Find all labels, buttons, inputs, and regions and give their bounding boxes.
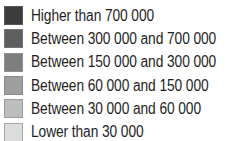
legend-swatch-0	[4, 6, 23, 25]
legend-swatch-5	[4, 123, 23, 141]
legend-label: Between 150 000 and 300 000	[31, 53, 216, 71]
legend-swatch-3	[4, 76, 23, 95]
legend-label: Lower than 30 000	[31, 123, 144, 141]
legend-swatch-2	[4, 53, 23, 72]
legend-item-60000-to-150000: Between 60 000 and 150 000	[4, 74, 244, 97]
legend-label: Between 30 000 and 60 000	[31, 100, 201, 118]
legend-item-300000-to-700000: Between 300 000 and 700 000	[4, 27, 244, 50]
legend-item-lower-than-30000: Lower than 30 000	[4, 120, 244, 141]
map-legend: Higher than 700 000 Between 300 000 and …	[4, 4, 244, 141]
legend-label: Between 60 000 and 150 000	[31, 77, 209, 95]
legend-swatch-1	[4, 29, 23, 48]
legend-label: Higher than 700 000	[31, 7, 154, 25]
legend-swatch-4	[4, 99, 23, 118]
legend-item-higher-than-700000: Higher than 700 000	[4, 4, 244, 27]
legend-item-30000-to-60000: Between 30 000 and 60 000	[4, 97, 244, 120]
legend-item-150000-to-300000: Between 150 000 and 300 000	[4, 51, 244, 74]
legend-label: Between 300 000 and 700 000	[31, 30, 216, 48]
